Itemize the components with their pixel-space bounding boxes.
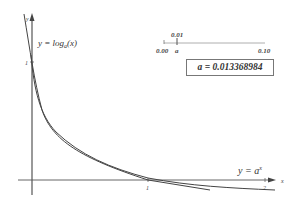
log-curve-label: y = loga(x): [37, 38, 77, 49]
slider-value-label: 0.01: [171, 31, 183, 39]
x-axis-label: x: [280, 178, 284, 184]
slider-handle-label: a: [175, 47, 179, 55]
x-tick-1: 1: [146, 185, 149, 191]
y-axis-arrow-icon: [30, 13, 35, 21]
exp-curve-label: y = ax: [237, 165, 262, 176]
y-tick-1: 1: [25, 60, 28, 66]
graph-canvas: y = loga(x) y = ax x y 1 2 1 0.01 0.00 a…: [0, 0, 300, 201]
y-axis: [30, 13, 35, 195]
slider-max-label: 0.10: [258, 47, 271, 55]
slider-min-label: 0.00: [156, 47, 169, 55]
x-axis-arrow-icon: [268, 178, 276, 183]
y-axis-label: y: [25, 16, 29, 22]
a-slider[interactable]: [164, 38, 265, 45]
a-value-readout: a = 0.013368984: [186, 59, 274, 76]
x-tick-2: 2: [263, 185, 266, 191]
